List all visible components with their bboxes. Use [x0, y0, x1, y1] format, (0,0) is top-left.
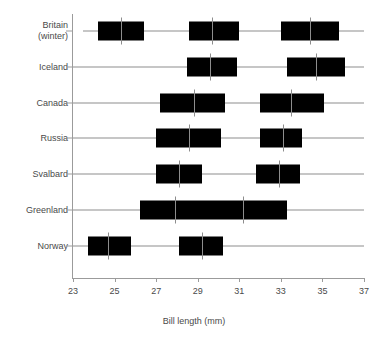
boxplot-median-line	[108, 232, 109, 259]
boxplot-median-line	[212, 18, 213, 45]
x-axis-tick	[364, 278, 365, 282]
boxplot-box	[260, 93, 324, 112]
category-label: Canada	[0, 97, 68, 108]
x-axis-tick	[198, 278, 199, 282]
y-axis-tick	[66, 102, 72, 103]
category-label: Norway	[0, 240, 68, 251]
boxplot-box	[256, 165, 300, 184]
category-label: Greenland	[0, 205, 68, 216]
x-axis-tick-label: 37	[359, 286, 369, 296]
boxplot-median-line	[316, 53, 317, 80]
category-label: Russia	[0, 133, 68, 144]
x-axis-tick-label: 23	[68, 286, 78, 296]
box-plot-chart: Britain (winter)IcelandCanadaRussiaSvalb…	[0, 0, 388, 349]
x-axis-tick-label: 31	[234, 286, 244, 296]
y-axis-line	[72, 14, 73, 278]
boxplot-median-line	[202, 232, 203, 259]
x-axis-tick	[281, 278, 282, 282]
boxplot-box	[140, 201, 213, 220]
boxplot-median-line	[189, 125, 190, 152]
y-axis-tick	[66, 210, 72, 211]
boxplot-median-line	[279, 161, 280, 188]
y-axis-tick	[66, 31, 72, 32]
x-axis-tick	[239, 278, 240, 282]
boxplot-median-line	[121, 18, 122, 45]
y-axis-tick	[66, 138, 72, 139]
category-label: Britain (winter)	[0, 20, 68, 42]
boxplot-box	[212, 201, 287, 220]
y-axis-tick	[66, 174, 72, 175]
boxplot-median-line	[210, 53, 211, 80]
x-axis-tick	[156, 278, 157, 282]
whisker-line	[73, 174, 364, 175]
boxplot-median-line	[194, 89, 195, 116]
boxplot-box	[156, 129, 220, 148]
x-axis-tick-label: 29	[193, 286, 203, 296]
boxplot-box	[160, 93, 224, 112]
x-axis-line	[72, 278, 364, 279]
boxplot-box	[189, 22, 239, 41]
boxplot-box	[260, 129, 302, 148]
boxplot-median-line	[175, 197, 176, 224]
boxplot-median-line	[243, 197, 244, 224]
boxplot-box	[187, 57, 237, 76]
x-axis-tick-label: 33	[276, 286, 286, 296]
x-axis-title: Bill length (mm)	[0, 316, 388, 326]
x-axis-tick	[115, 278, 116, 282]
boxplot-box	[88, 236, 132, 255]
x-axis-tick-label: 35	[317, 286, 327, 296]
boxplot-median-line	[179, 161, 180, 188]
x-axis-tick	[322, 278, 323, 282]
boxplot-median-line	[310, 18, 311, 45]
x-axis-tick-label: 27	[151, 286, 161, 296]
category-label: Iceland	[0, 61, 68, 72]
boxplot-median-line	[283, 125, 284, 152]
x-axis-tick	[73, 278, 74, 282]
boxplot-box	[179, 236, 223, 255]
category-label: Svalbard	[0, 169, 68, 180]
boxplot-median-line	[291, 89, 292, 116]
y-axis-tick	[66, 245, 72, 246]
y-axis-tick	[66, 66, 72, 67]
x-axis-tick-label: 25	[110, 286, 120, 296]
